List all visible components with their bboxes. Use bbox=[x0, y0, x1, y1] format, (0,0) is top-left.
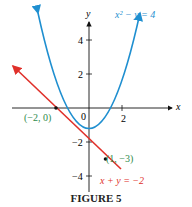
figure-caption: FIGURE 5 bbox=[0, 192, 192, 204]
point-label-2: (1, −3) bbox=[106, 154, 133, 164]
intersection-point-1 bbox=[54, 106, 58, 110]
x-axis-label: x bbox=[176, 102, 180, 112]
point-label-1: (−2, 0) bbox=[24, 113, 51, 123]
line-equation-label: x + y = −2 bbox=[100, 176, 144, 186]
tick-label-y4: 4 bbox=[78, 36, 83, 46]
y-axis-label: y bbox=[86, 9, 90, 19]
tick-label-ym4: −4 bbox=[72, 172, 83, 182]
tick-label-x2: 2 bbox=[121, 114, 126, 124]
parabola-equation-label: x² − y = 4 bbox=[115, 10, 155, 20]
tick-label-y2: 2 bbox=[78, 70, 83, 80]
tick-label-ym2: −2 bbox=[72, 138, 83, 148]
graph-canvas bbox=[0, 0, 192, 207]
origin-label: 0 bbox=[81, 112, 86, 122]
